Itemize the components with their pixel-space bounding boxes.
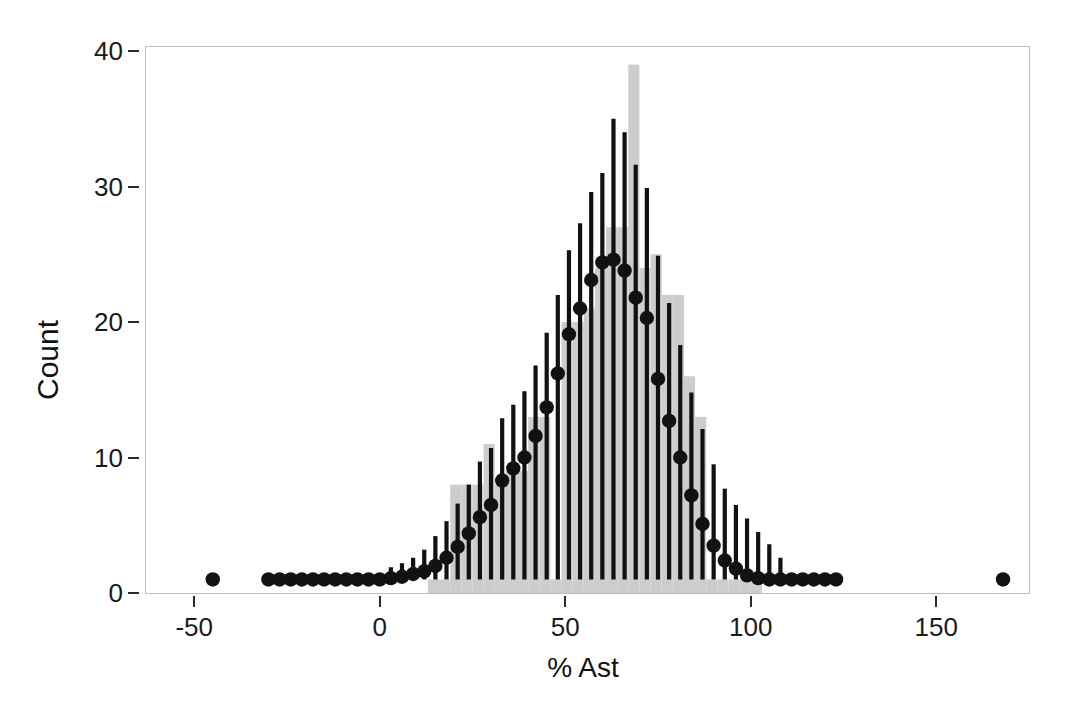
x-axis: % Ast -50050100150 xyxy=(0,594,1082,720)
y-tick-mark xyxy=(128,186,139,188)
x-tick-label: 100 xyxy=(691,612,811,643)
x-tick-label: 0 xyxy=(320,612,440,643)
y-tick-mark xyxy=(128,50,139,52)
x-tick-mark xyxy=(935,596,937,607)
x-tick-mark xyxy=(750,596,752,607)
y-tick-mark xyxy=(128,457,139,459)
y-tick-mark xyxy=(128,321,139,323)
x-tick-label: 50 xyxy=(505,612,625,643)
y-tick-label: 20 xyxy=(94,307,123,337)
x-axis-title-text: % Ast xyxy=(547,652,619,683)
plot-area xyxy=(145,46,1030,594)
y-tick-label: 10 xyxy=(94,443,123,473)
plot-canvas xyxy=(146,47,1029,593)
x-tick-label: 150 xyxy=(876,612,996,643)
x-axis-title: % Ast xyxy=(0,652,1082,684)
y-tick-label: 40 xyxy=(94,36,123,66)
x-tick-label: -50 xyxy=(134,612,254,643)
y-axis-title: Count xyxy=(31,320,65,400)
chart-figure: Count 010203040 % Ast -50050100150 xyxy=(0,0,1082,720)
x-tick-mark xyxy=(193,596,195,607)
y-tick-label: 30 xyxy=(94,172,123,202)
x-tick-mark xyxy=(379,596,381,607)
x-tick-mark xyxy=(564,596,566,607)
